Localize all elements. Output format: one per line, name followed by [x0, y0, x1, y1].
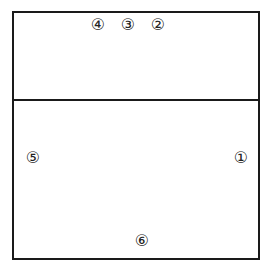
position-6-marker[interactable]: ⑥	[132, 231, 152, 251]
position-5-marker[interactable]: ⑤	[23, 148, 43, 168]
attack-line	[12, 99, 260, 101]
position-3-marker[interactable]: ③	[118, 15, 138, 35]
court-boundary	[12, 11, 260, 260]
position-4-marker[interactable]: ④	[88, 15, 108, 35]
position-2-marker[interactable]: ②	[148, 15, 168, 35]
position-1-marker[interactable]: ①	[231, 148, 251, 168]
